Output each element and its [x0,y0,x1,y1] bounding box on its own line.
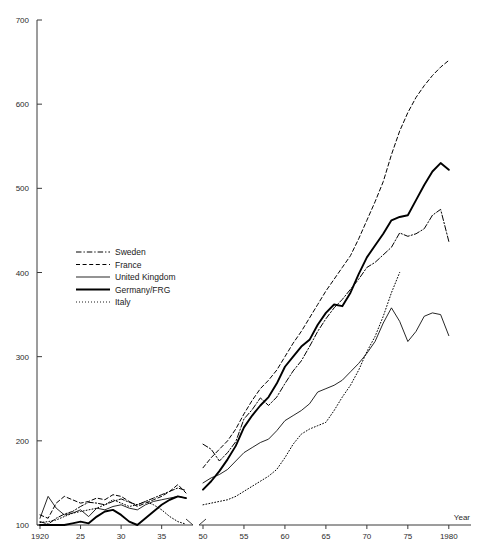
x-tick-label-right: 65 [321,532,330,541]
x-tick-label-left: 25 [76,532,85,541]
x-tick-label-left: 35 [157,532,166,541]
legend-label: France [115,260,142,270]
line-chart: 100200300400500600700 1920253035 5055606… [0,0,483,549]
legend-label: Germany/FRG [115,285,170,295]
x-tick-label-left: 30 [117,532,126,541]
left-panel-x-axis: 1920253035 [31,519,193,541]
legend-label: Italy [115,297,131,307]
series-line-left [40,496,186,525]
legend-label: Sweden [115,247,146,257]
series-line-right [203,273,400,505]
right-panel-x-axis: 5055606570751980Year [199,513,471,541]
series-line-right [203,163,449,490]
y-axis: 100200300400500600700 [16,16,42,530]
series-line-right [203,209,449,461]
left-panel-series [40,485,186,525]
y-tick-label: 300 [16,353,30,362]
series-line-right [203,308,449,483]
y-tick-label: 200 [16,437,30,446]
right-panel-series [203,60,449,504]
y-tick-label: 400 [16,269,30,278]
x-axis-title: Year [454,513,471,522]
y-tick-label: 100 [16,521,30,530]
y-tick-label: 600 [16,100,30,109]
x-tick-label-right: 55 [240,532,249,541]
chart-container: 100200300400500600700 1920253035 5055606… [0,0,483,549]
y-tick-label: 500 [16,184,30,193]
x-tick-label-right: 70 [362,532,371,541]
y-tick-label: 700 [16,16,30,25]
x-tick-label-right: 75 [403,532,412,541]
legend-label: United Kingdom [115,272,175,282]
chart-legend: SwedenFranceUnited KingdomGermany/FRGIta… [76,247,175,307]
series-line-right [203,60,449,467]
x-tick-label-right: 1980 [440,532,458,541]
x-tick-label-left: 1920 [31,532,49,541]
x-tick-label-right: 50 [199,532,208,541]
x-tick-label-right: 60 [280,532,289,541]
